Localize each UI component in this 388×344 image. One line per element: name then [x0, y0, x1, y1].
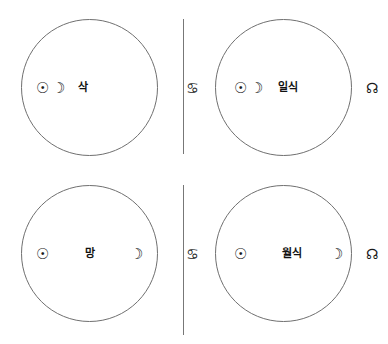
- ascending-node-icon: ☊: [366, 241, 378, 267]
- phase-label: 삭: [78, 75, 88, 101]
- phase-label: 일식: [278, 75, 299, 101]
- sun-icon: ☉: [36, 75, 49, 101]
- sun-icon: ☉: [36, 241, 49, 267]
- panel-lunar-eclipse: ♋ ☉ 월식 ☽ ☊: [194, 172, 388, 344]
- ascending-node-icon: ☊: [366, 75, 378, 101]
- descending-node-icon: ♋: [186, 241, 199, 267]
- sun-icon: ☉: [234, 241, 247, 267]
- symbol-row: ♋ ☉ ☽ 일식 ☊: [194, 75, 388, 101]
- phase-label: 월식: [282, 241, 303, 267]
- moon-icon: ☽: [250, 75, 263, 101]
- symbol-row: ☉ ☽ 삭: [0, 75, 194, 101]
- panel-new-moon: ☉ ☽ 삭: [0, 0, 194, 172]
- phase-label: 망: [85, 241, 95, 267]
- moon-icon: ☽: [130, 241, 143, 267]
- descending-node-icon: ♋: [186, 75, 199, 101]
- moon-icon: ☽: [330, 241, 343, 267]
- sun-icon: ☉: [234, 75, 247, 101]
- moon-icon: ☽: [52, 75, 65, 101]
- eclipse-phase-diagram: ☉ ☽ 삭 ♋ ☉ ☽ 일식 ☊ ☉ 망 ☽ ♋ ☉ 월식 ☽ ☊: [0, 0, 388, 344]
- symbol-row: ♋ ☉ 월식 ☽ ☊: [194, 241, 388, 267]
- panel-solar-eclipse: ♋ ☉ ☽ 일식 ☊: [194, 0, 388, 172]
- panel-full-moon: ☉ 망 ☽: [0, 172, 194, 344]
- symbol-row: ☉ 망 ☽: [0, 241, 194, 267]
